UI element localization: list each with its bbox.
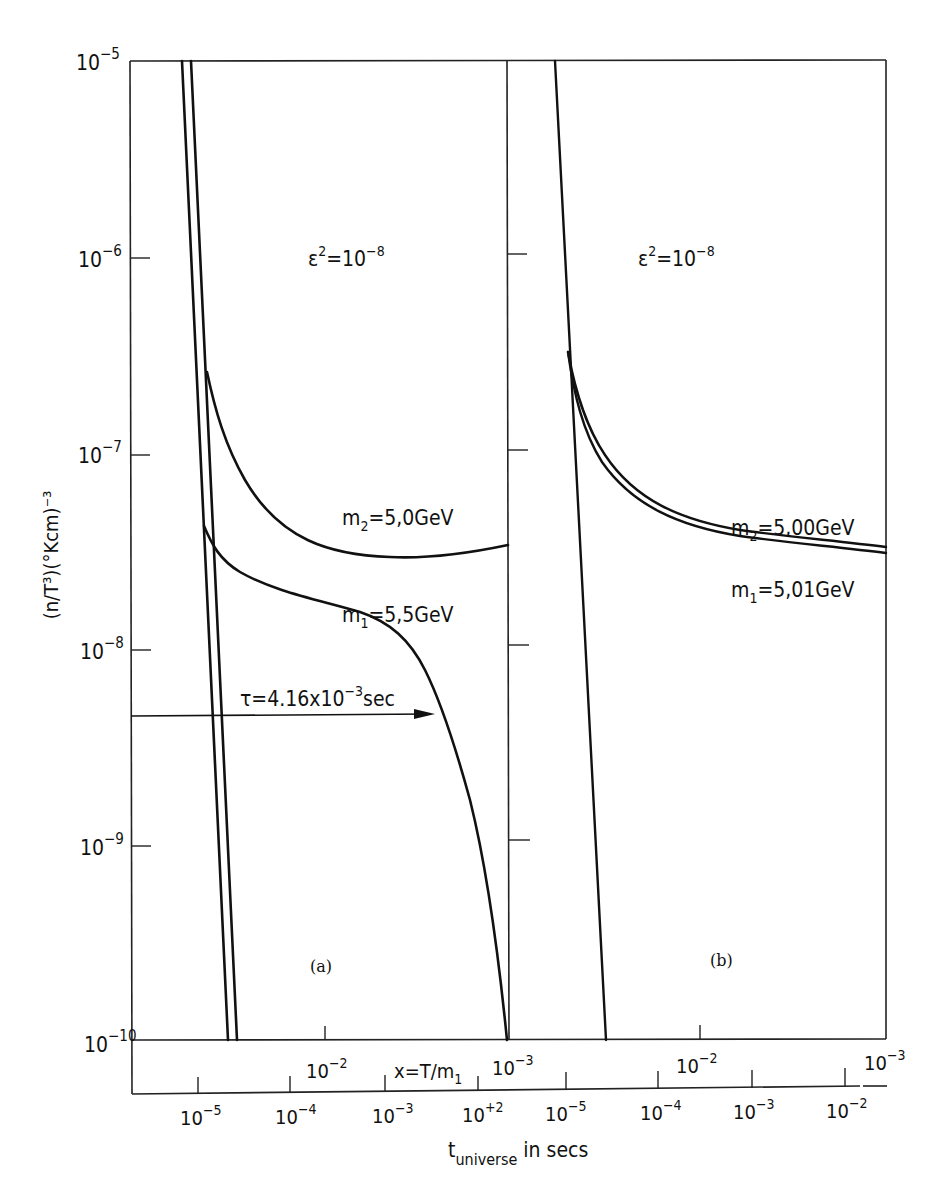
svg-text:10−5: 10−5 [545, 1098, 586, 1126]
svg-text:10+2: 10+2 [462, 1099, 503, 1127]
chart: 10−5 10−6 10−7 10−8 10−9 10−10 (n/T³)(°K… [0, 0, 936, 1199]
svg-text:10−2: 10−2 [306, 1055, 347, 1083]
equilibrium-line-2 [191, 61, 237, 1040]
svg-text:10−3: 10−3 [864, 1047, 905, 1075]
svg-text:10−4: 10−4 [275, 1101, 316, 1129]
panel-divider [507, 60, 509, 1040]
equilibrium-line-b [555, 61, 606, 1040]
eps-label-a: ε2=10−8 [308, 243, 385, 271]
x-ticks-top [325, 1025, 700, 1040]
m1-label-b: m1=5,01GeV [731, 578, 855, 606]
svg-text:10−9: 10−9 [80, 830, 124, 860]
svg-text:10−2: 10−2 [676, 1050, 717, 1078]
x-top-title: x=T/m1 [394, 1059, 462, 1087]
panel-b-tag: (b) [710, 951, 733, 970]
x-bottom-labels: 10−5 10−4 10−3 10+2 10−5 10−4 10−3 10−2 [180, 1095, 867, 1130]
m2-label-b: m2=5,00GeV [731, 516, 855, 544]
m2-label-a: m2=5,0GeV [342, 506, 454, 534]
svg-text:10−10: 10−10 [84, 1027, 137, 1057]
panel-b-curves [555, 61, 886, 1040]
svg-text:10−3: 10−3 [372, 1100, 413, 1128]
equilibrium-line-1 [182, 61, 228, 1040]
svg-text:10−2: 10−2 [826, 1095, 867, 1123]
x-top-labels: 10−2 x=T/m1 10−3 10−2 10−3 [306, 1047, 905, 1087]
ytick-base: 10 [76, 51, 100, 75]
y-tick-labels: 10−5 10−6 10−7 10−8 10−9 10−10 [76, 45, 137, 1057]
svg-text:10−3: 10−3 [733, 1096, 774, 1124]
panel-a-labels: ε2=10−8 m2=5,0GeV m1=5,5GeV τ=4.16x10−3s… [240, 243, 454, 976]
y-ticks-left [130, 258, 151, 846]
svg-text:10−5: 10−5 [180, 1102, 221, 1130]
eps-label-b: ε2=10−8 [638, 243, 715, 271]
bottom-axis-line [132, 1086, 860, 1094]
svg-text:10−3: 10−3 [492, 1052, 533, 1080]
m1-label-a: m1=5,5GeV [342, 603, 454, 631]
svg-text:10−7: 10−7 [78, 438, 122, 468]
panel-a-curves [182, 61, 508, 1040]
svg-text:10−6: 10−6 [78, 242, 122, 272]
panel-b-labels: ε2=10−8 m2=5,00GeV m1=5,01GeV (b) [638, 243, 855, 970]
svg-text:10−4: 10−4 [640, 1097, 681, 1125]
plot-frame [130, 60, 887, 1094]
svg-text:10−5: 10−5 [76, 45, 120, 75]
y-ticks-divider [507, 254, 530, 840]
tau-label: τ=4.16x10−3sec [240, 683, 395, 711]
svg-text:10−8: 10−8 [80, 634, 124, 664]
panel-a-tag: (a) [310, 957, 332, 976]
y-axis-title: (n/T³)(°Kcm)⁻³ [39, 491, 63, 620]
x-axis-title: tuniverse in secs [448, 1138, 588, 1169]
